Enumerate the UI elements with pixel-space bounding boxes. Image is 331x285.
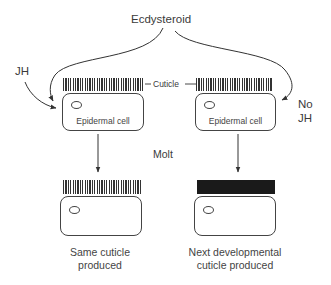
right-outcome-line2: cuticle produced <box>175 259 295 272</box>
cuticle-bottom-left <box>63 180 141 194</box>
epidermal-cell-top-left: Epidermal cell <box>62 93 144 131</box>
epidermal-cell-bottom-right <box>194 196 276 236</box>
left-outcome-line1: Same cuticle <box>50 246 150 259</box>
cell-label: Epidermal cell <box>196 116 275 126</box>
epidermal-cell-top-right: Epidermal cell <box>195 93 276 131</box>
no-jh-label-line1: No <box>298 98 313 110</box>
cuticle-top-left <box>63 78 145 91</box>
right-outcome-line1: Next developmental <box>175 246 295 259</box>
molt-label: Molt <box>153 148 173 160</box>
cuticle-bottom-right-solid <box>197 180 275 194</box>
cuticle-top-right <box>196 78 273 91</box>
left-outcome-line2: produced <box>50 259 150 272</box>
cell-label: Epidermal cell <box>63 116 143 126</box>
epidermal-cell-bottom-left <box>60 196 142 236</box>
nucleus-icon <box>71 101 82 109</box>
nucleus-icon <box>69 206 80 214</box>
jh-arrow <box>25 82 56 108</box>
jh-label: JH <box>15 65 29 77</box>
nucleus-icon <box>203 206 214 214</box>
left-outcome-caption: Same cuticle produced <box>50 246 150 272</box>
ecdysteroid-label: Ecdysteroid <box>131 13 191 25</box>
right-outcome-caption: Next developmental cuticle produced <box>175 246 295 272</box>
connector-arrows <box>0 0 331 285</box>
nucleus-icon <box>204 101 215 109</box>
cuticle-label: Cuticle <box>153 79 179 89</box>
no-jh-label-line2: JH <box>298 112 312 124</box>
